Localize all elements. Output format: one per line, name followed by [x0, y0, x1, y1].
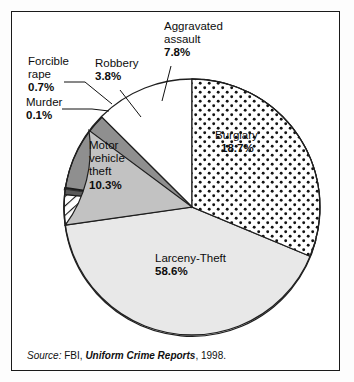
label-larceny-theft-name: Larceny-Theft — [155, 252, 226, 264]
label-motor-vehicle-theft-line2: vehicle — [89, 152, 125, 164]
label-robbery-pct: 3.8% — [95, 70, 121, 82]
label-aggravated-assault-line1: Aggravated — [164, 20, 223, 32]
label-robbery: Robbery 3.8% — [95, 57, 138, 83]
label-aggravated-assault-line2: assault — [164, 33, 200, 45]
leader-line-aggravated-assault — [162, 66, 171, 101]
label-larceny-theft: Larceny-Theft 58.6% — [155, 252, 226, 278]
label-murder-name: Murder — [26, 96, 62, 108]
label-forcible-rape-line1: Forcible — [28, 55, 69, 67]
label-murder-pct: 0.1% — [26, 109, 52, 121]
source-year: , 1998. — [195, 350, 226, 361]
label-burglary: Burglary 18.7% — [215, 129, 258, 155]
label-robbery-name: Robbery — [95, 57, 138, 69]
label-forcible-rape-pct: 0.7% — [28, 81, 54, 93]
label-motor-vehicle-theft-line3: theft — [89, 165, 111, 177]
label-larceny-theft-pct: 58.6% — [155, 265, 188, 277]
leader-line-murder — [62, 109, 109, 111]
figure-container: Aggravated assault 7.8% Forcible rape 0.… — [0, 0, 354, 382]
label-burglary-pct: 18.7% — [221, 142, 254, 154]
label-motor-vehicle-theft-line1: Motor — [89, 139, 118, 151]
source-agency: FBI, — [64, 350, 82, 361]
label-burglary-name: Burglary — [215, 129, 258, 141]
source-note: Source: FBI, Uniform Crime Reports, 1998… — [27, 350, 226, 361]
label-aggravated-assault: Aggravated assault 7.8% — [164, 20, 223, 60]
label-murder: Murder 0.1% — [26, 96, 62, 122]
source-publication: Uniform Crime Reports — [85, 350, 195, 361]
label-motor-vehicle-theft: Motor vehicle theft 10.3% — [89, 139, 125, 192]
label-forcible-rape: Forcible rape 0.7% — [28, 55, 69, 95]
source-label: Source: — [27, 350, 61, 361]
label-aggravated-assault-pct: 7.8% — [164, 46, 190, 58]
label-forcible-rape-line2: rape — [28, 68, 51, 80]
leader-line-forcible-rape — [64, 82, 112, 104]
label-motor-vehicle-theft-pct: 10.3% — [89, 179, 122, 191]
